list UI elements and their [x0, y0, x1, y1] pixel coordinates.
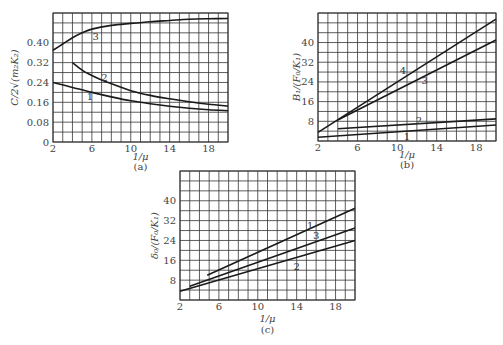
- y-tick-label: 40: [301, 37, 314, 48]
- y-tick-label: 0.24: [27, 77, 49, 88]
- curve-label-2: 2: [416, 115, 422, 126]
- x-tick-label: 14: [163, 143, 176, 154]
- chart-c: 261014188162432401/μδ₀/(F₀/K₁)(c)123: [149, 171, 355, 335]
- chart-b: 261014188162432401/μB₁/(F₀/K₁)(b)1234: [291, 13, 496, 170]
- y-tick-label: 0.16: [27, 97, 49, 108]
- x-tick-label: 6: [216, 301, 222, 312]
- x-tick-label: 2: [177, 301, 183, 312]
- curve-label-3: 3: [422, 75, 428, 86]
- x-tick-label: 2: [50, 143, 56, 154]
- y-tick-label: 24: [301, 76, 314, 87]
- curve-label-4: 4: [400, 65, 406, 76]
- grid-lines: [318, 13, 496, 141]
- x-tick-label: 14: [430, 142, 443, 153]
- figure-caption: (b): [400, 159, 414, 170]
- y-tick-label: 16: [163, 255, 176, 266]
- curve-label-2: 2: [101, 72, 107, 83]
- y-axis-label: C/2√(m₂K₂): [9, 49, 20, 106]
- figure-canvas: 2610141800.080.160.240.320.401/μC/2√(m₂K…: [0, 0, 503, 345]
- y-tick-label: 16: [301, 96, 314, 107]
- y-axis-label: δ₀/(F₀/K₁): [149, 212, 160, 259]
- x-tick-label: 18: [329, 301, 342, 312]
- y-tick-label: 24: [163, 235, 176, 246]
- x-tick-label: 14: [290, 301, 303, 312]
- curve-label-3: 3: [93, 31, 99, 42]
- curve-1: [207, 208, 355, 275]
- y-tick-label: 8: [308, 116, 314, 127]
- y-axis-label: B₁/(F₀/K₁): [291, 53, 302, 102]
- x-tick-label: 6: [354, 142, 360, 153]
- grid-lines: [53, 13, 228, 142]
- curve-label-1: 1: [404, 131, 410, 142]
- curve-label-3: 3: [313, 230, 319, 241]
- curve-label-2: 2: [293, 261, 299, 272]
- x-axis-label: 1/μ: [259, 313, 275, 324]
- x-tick-label: 10: [251, 301, 264, 312]
- y-tick-label: 0.40: [27, 37, 49, 48]
- x-tick-label: 18: [470, 142, 483, 153]
- x-tick-label: 2: [315, 142, 321, 153]
- y-tick-label: 0.08: [27, 117, 49, 128]
- chart-a: 2610141800.080.160.240.320.401/μC/2√(m₂K…: [9, 13, 228, 172]
- curve-label-1: 1: [87, 91, 93, 102]
- y-tick-label: 32: [163, 215, 176, 226]
- y-tick-label: 8: [170, 275, 176, 286]
- y-tick-label: 32: [301, 57, 314, 68]
- curve-3: [190, 228, 355, 286]
- y-tick-label: 0.32: [27, 57, 49, 68]
- y-tick-label: 40: [163, 195, 176, 206]
- y-tick-label: 0: [43, 137, 49, 148]
- x-tick-label: 6: [89, 143, 95, 154]
- figure-caption: (a): [134, 161, 148, 172]
- figure-caption: (c): [261, 324, 275, 335]
- x-tick-label: 18: [202, 143, 215, 154]
